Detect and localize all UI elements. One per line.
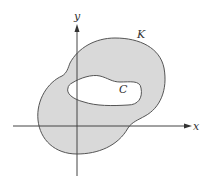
x-axis-arrow-icon	[184, 124, 192, 129]
curve-k-label: K	[136, 28, 146, 41]
y-axis-arrow-icon	[75, 24, 80, 32]
region-k-shaded	[38, 38, 165, 154]
diagram-svg: y x K C	[0, 0, 211, 187]
y-axis-label: y	[73, 10, 81, 23]
x-axis-label: x	[193, 120, 200, 133]
diagram-canvas: y x K C	[0, 0, 211, 187]
curve-c-label: C	[119, 83, 128, 96]
